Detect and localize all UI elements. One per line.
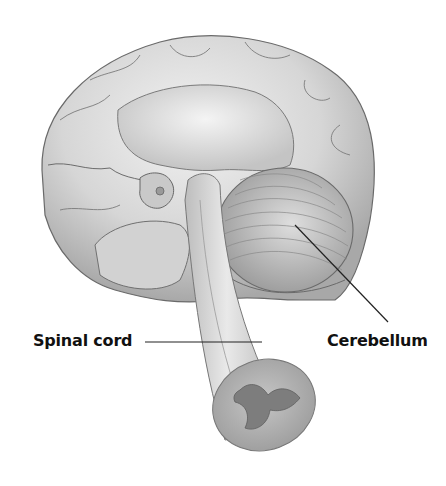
spinal-cord-label: Spinal cord	[33, 331, 132, 350]
midbrain	[140, 173, 174, 208]
cerebellum-label: Cerebellum	[327, 331, 428, 350]
cerebellum	[217, 168, 353, 293]
brain-illustration	[0, 0, 446, 486]
